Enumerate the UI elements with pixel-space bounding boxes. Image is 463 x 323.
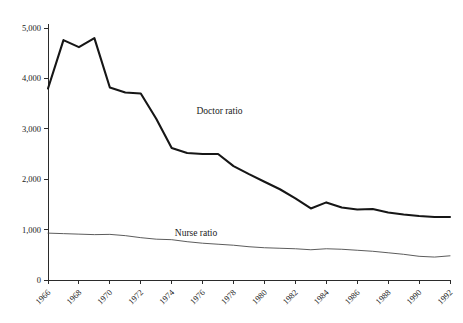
line-chart: 01,0002,0003,0004,0005,000 1966196819701… (0, 0, 463, 323)
nurse-ratio-line (48, 233, 450, 257)
y-tick-label: 5,000 (22, 23, 41, 33)
x-tick-label: 1978 (219, 287, 238, 306)
x-tick-label: 1990 (404, 287, 423, 306)
x-tick-label: 1974 (157, 287, 177, 307)
doctor-ratio-line (48, 38, 450, 217)
x-tick-label: 1988 (373, 287, 392, 306)
y-tick-label: 0 (37, 275, 41, 285)
x-tick-label: 1976 (188, 287, 207, 306)
y-tick-label: 1,000 (22, 225, 41, 235)
y-tick-label: 4,000 (22, 73, 41, 83)
x-tick-label: 1984 (312, 287, 332, 307)
x-tick-label: 1982 (281, 287, 300, 306)
x-tick-label: 1968 (64, 287, 83, 306)
x-tick-label: 1980 (250, 287, 269, 306)
doctor-ratio-label: Doctor ratio (196, 106, 242, 116)
x-tick-label: 1970 (95, 287, 114, 306)
x-axis: 1966196819701972197419761978198019821984… (33, 280, 454, 306)
y-axis: 01,0002,0003,0004,0005,000 (22, 23, 48, 285)
chart-canvas: 01,0002,0003,0004,0005,000 1966196819701… (0, 0, 463, 323)
series-layer (48, 38, 450, 257)
x-tick-label: 1966 (33, 287, 52, 306)
series-annotations: Doctor ratioNurse ratio (175, 106, 243, 238)
x-tick-label: 1992 (435, 287, 454, 306)
y-tick-label: 3,000 (22, 124, 41, 134)
nurse-ratio-label: Nurse ratio (175, 228, 218, 238)
y-tick-label: 2,000 (22, 174, 41, 184)
x-tick-label: 1986 (343, 287, 362, 306)
x-tick-label: 1972 (126, 287, 145, 306)
